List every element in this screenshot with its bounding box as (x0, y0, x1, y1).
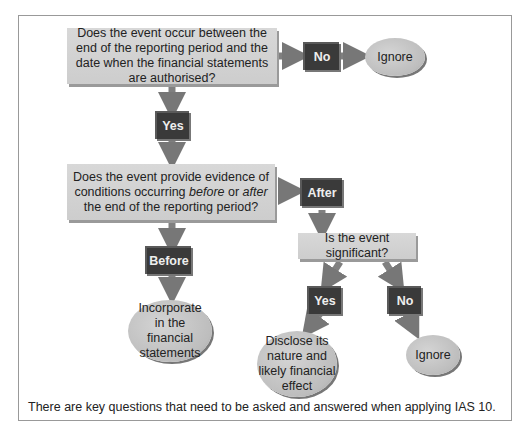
oval-ignore-bottom: Ignore (406, 335, 460, 375)
label-no-significant: No (387, 286, 421, 314)
label-before: Before (145, 246, 191, 274)
label-yes-significant: Yes (307, 286, 341, 314)
oval-ignore-top: Ignore (365, 38, 425, 76)
label-after: After (300, 178, 342, 206)
figure-caption: There are key questions that need to be … (28, 400, 496, 414)
question-significant: Is the event significant? (298, 233, 416, 259)
question-occur-between: Does the event occur between the end of … (67, 28, 277, 84)
label-no: No (303, 42, 339, 70)
question-before-after: Does the event provide evidence of condi… (67, 164, 275, 220)
oval-incorporate: Incorporate in the financial statements (128, 300, 212, 362)
oval-disclose: Disclose its nature and likely financial… (257, 331, 337, 397)
label-yes: Yes (155, 111, 189, 139)
